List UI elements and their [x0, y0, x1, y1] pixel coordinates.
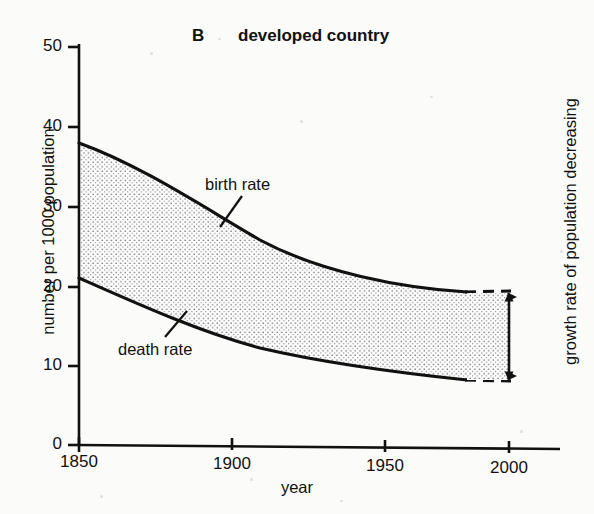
x-tick-label-2000: 2000 [474, 458, 544, 478]
scan-speck [100, 495, 103, 498]
birth-rate-label: birth rate [205, 175, 270, 194]
scan-speck [300, 120, 303, 123]
scan-speck [340, 500, 343, 502]
x-tick-label-1950: 1950 [350, 456, 420, 476]
y-tick-label-0: 0 [16, 434, 62, 454]
x-tick-label-1850: 1850 [44, 452, 114, 472]
x-axis-line [78, 445, 560, 449]
x-axis-label: year [0, 478, 594, 497]
scan-speck [430, 96, 433, 98]
scan-speck [218, 38, 221, 40]
birth-rate-dashed-extension [465, 291, 511, 292]
scan-speck [250, 478, 253, 481]
panel-letter: B [192, 26, 204, 46]
x-tick-label-1900: 1900 [197, 454, 267, 474]
figure-panel-b: B developed country 50 40 30 20 10 0 185… [0, 0, 594, 514]
scan-speck [560, 250, 563, 253]
y-tick-label-50: 50 [16, 36, 62, 56]
death-rate-dashed-extension [465, 380, 511, 381]
scan-speck [150, 52, 153, 55]
shaded-band-extension [467, 293, 509, 380]
death-rate-label: death rate [118, 340, 192, 359]
y-axis-label: number per 1000 population [39, 102, 58, 362]
scan-speck [46, 300, 49, 303]
growth-rate-label: growth rate of population decreasing [561, 82, 580, 382]
chart-title: developed country [238, 26, 389, 46]
scan-speck [520, 430, 523, 433]
chart-plot-area [0, 0, 594, 514]
